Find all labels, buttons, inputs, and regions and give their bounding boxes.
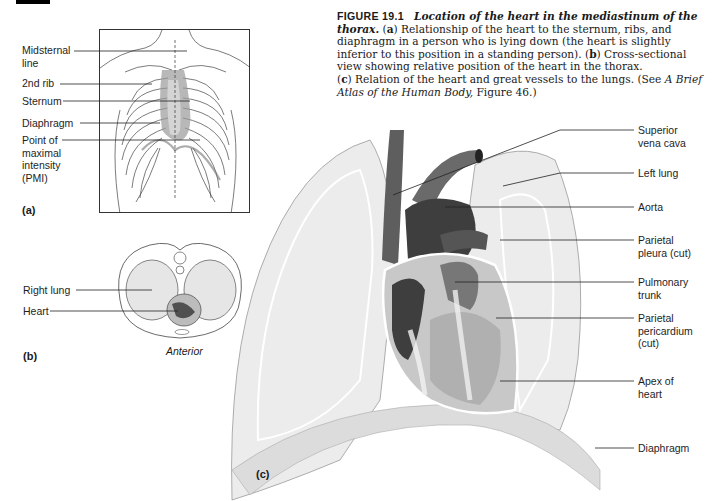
panel-a-tag: (a) [22,204,35,216]
label-2nd-rib: 2nd rib [22,77,54,90]
panel-a-thorax-illustration [99,29,250,213]
caption-reference-tail: Figure 46.) [477,86,537,98]
label-anterior: Anterior [166,345,203,357]
panel-c-tag: (c) [256,468,269,480]
caption-tag-a: a [387,23,394,35]
label-diaphragm-c: Diaphragm [638,442,689,455]
label-diaphragm-a: Diaphragm [22,117,73,130]
cross-section-drawing [119,243,242,338]
label-right-lung: Right lung [23,284,70,297]
figure-number: FIGURE 19.1 [337,10,404,22]
label-sternum: Sternum [22,95,62,108]
panel-b-tag: (b) [23,350,37,362]
sternum-shape [167,80,180,135]
label-parietal-pericardium: Parietalpericardium(cut) [638,312,693,350]
label-left-lung: Left lung [638,167,678,180]
label-superior-vena-cava: Superiorvena cava [638,124,686,149]
label-parietal-pleura: Parietalpleura (cut) [638,234,691,259]
label-midsternal-line: Midsternalline [22,44,70,69]
caption-tag-b: b [589,48,596,60]
panel-c-drawing [232,130,600,500]
label-heart-b: Heart [23,305,49,318]
label-apex-of-heart: Apex ofheart [638,375,674,400]
label-aorta: Aorta [638,201,663,214]
label-pmi: Point ofmaximal intensity(PMI) [22,134,61,184]
label-pulmonary-trunk: Pulmonarytrunk [638,276,688,301]
caption-tag-c: c [341,73,347,85]
ribcage-drawing [100,30,250,213]
figure-caption: FIGURE 19.1 Location of the heart in the… [337,10,707,98]
caption-c-text: Relation of the heart and great vessels … [355,73,661,85]
page-corner-tab [16,0,50,4]
